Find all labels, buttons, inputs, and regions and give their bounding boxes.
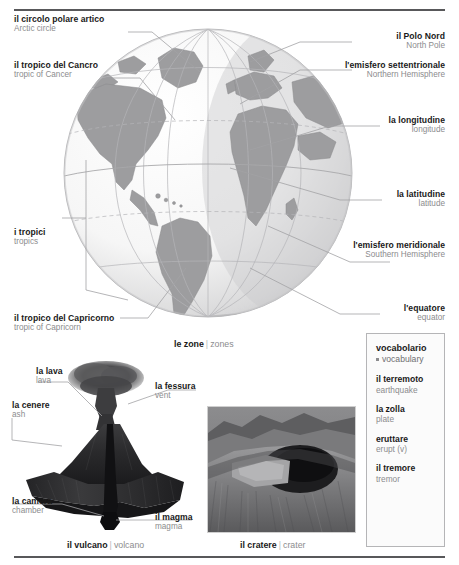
label-tropic-cancer: il tropico del Cancro tropic of Cancer <box>14 60 98 80</box>
label-magma-en: magma <box>155 522 193 532</box>
vocabulary-title-en-row: vocabulary <box>376 354 444 366</box>
caption-volcano-it: il vulcano <box>67 540 108 550</box>
label-equator-it: l'equatore <box>404 303 445 313</box>
caption-zones: le zone|zones <box>174 340 234 349</box>
label-vent-it: la fessura <box>155 381 196 391</box>
label-equator-en: equator <box>404 313 445 323</box>
vocabulary-entry: la zolla plate <box>376 404 444 425</box>
label-arctic-circle-en: Arctic circle <box>14 24 104 34</box>
vocabulary-entry-it: il tremore <box>376 463 444 473</box>
label-vent: la fessura vent <box>155 381 196 401</box>
vocabulary-entry-it: il terremoto <box>376 374 444 384</box>
label-chamber-it: la camera <box>12 496 52 506</box>
label-ash-it: la cenere <box>12 400 50 410</box>
vocabulary-entry: il terremoto earthquake <box>376 374 444 395</box>
page-root: il circolo polare artico Arctic circle i… <box>0 0 459 565</box>
bullet-icon <box>376 358 379 361</box>
label-latitude: la latitudine latitude <box>397 189 445 209</box>
caption-crater: il cratere|crater <box>240 541 305 550</box>
vocabulary-entry: il tremore tremor <box>376 463 444 484</box>
label-longitude: la longitudine longitude <box>389 115 445 135</box>
caption-zones-it: le zone <box>174 339 204 349</box>
caption-volcano-en: volcano <box>114 540 144 550</box>
label-north-pole-it: il Polo Nord <box>396 31 445 41</box>
label-vent-en: vent <box>155 391 196 401</box>
label-latitude-it: la latitudine <box>397 189 445 199</box>
label-lava-en: lava <box>36 376 63 386</box>
label-chamber: la camera chamber <box>12 496 52 516</box>
label-northern-hemisphere: l'emisfero settentrionale Northern Hemis… <box>345 60 445 80</box>
caption-crater-en: crater <box>283 540 306 550</box>
label-tropics-it: i tropici <box>14 227 45 237</box>
vocabulary-title-it: vocabolario <box>376 343 444 354</box>
globe-illustration <box>62 18 354 333</box>
label-magma: il magma magma <box>155 512 193 532</box>
label-tropic-capricorn-it: il tropico del Capricorno <box>14 313 114 323</box>
vocabulary-entry-en: plate <box>376 414 444 424</box>
label-longitude-it: la longitudine <box>389 115 445 125</box>
label-northern-hemisphere-it: l'emisfero settentrionale <box>345 60 445 70</box>
label-southern-hemisphere-it: l'emisfero meridionale <box>345 240 445 250</box>
vocabulary-entry-it: la zolla <box>376 404 444 414</box>
label-northern-hemisphere-en: Northern Hemisphere <box>345 70 445 80</box>
vocabulary-entry-en: erupt (v) <box>376 444 444 454</box>
label-tropic-cancer-it: il tropico del Cancro <box>14 60 98 70</box>
label-southern-hemisphere: l'emisfero meridionale Southern Hemisphe… <box>345 240 445 260</box>
label-arctic-circle: il circolo polare artico Arctic circle <box>14 14 104 34</box>
top-divider <box>14 9 445 11</box>
label-ash: la cenere ash <box>12 400 50 420</box>
label-arctic-circle-it: il circolo polare artico <box>14 14 104 24</box>
label-southern-hemisphere-en: Southern Hemisphere <box>345 250 445 260</box>
bottom-divider <box>14 556 445 558</box>
label-lava: la lava lava <box>36 366 63 386</box>
vocabulary-title-en: vocabulary <box>382 354 424 364</box>
vocabulary-box: vocabolario vocabulary il terremoto eart… <box>366 333 445 547</box>
label-ash-en: ash <box>12 410 50 420</box>
label-tropic-capricorn: il tropico del Capricorno tropic of Capr… <box>14 313 114 333</box>
label-lava-it: la lava <box>36 366 63 376</box>
label-chamber-en: chamber <box>12 506 52 516</box>
label-tropics: i tropici tropics <box>14 227 45 247</box>
label-tropic-capricorn-en: tropic of Capricorn <box>14 323 114 333</box>
label-magma-it: il magma <box>155 512 193 522</box>
label-latitude-en: latitude <box>397 199 445 209</box>
caption-volcano: il vulcano|volcano <box>67 541 144 550</box>
label-tropic-cancer-en: tropic of Cancer <box>14 70 98 80</box>
label-equator: l'equatore equator <box>404 303 445 323</box>
caption-crater-it: il cratere <box>240 540 277 550</box>
label-tropics-en: tropics <box>14 237 45 247</box>
label-longitude-en: longitude <box>389 125 445 135</box>
crater-photo <box>207 406 356 533</box>
vocabulary-entry: eruttare erupt (v) <box>376 434 444 455</box>
caption-zones-en: zones <box>210 339 233 349</box>
vocabulary-entry-en: earthquake <box>376 385 444 395</box>
label-north-pole-en: North Pole <box>396 41 445 51</box>
vocabulary-entry-it: eruttare <box>376 434 444 444</box>
label-north-pole: il Polo Nord North Pole <box>396 31 445 51</box>
vocabulary-entry-en: tremor <box>376 474 444 484</box>
